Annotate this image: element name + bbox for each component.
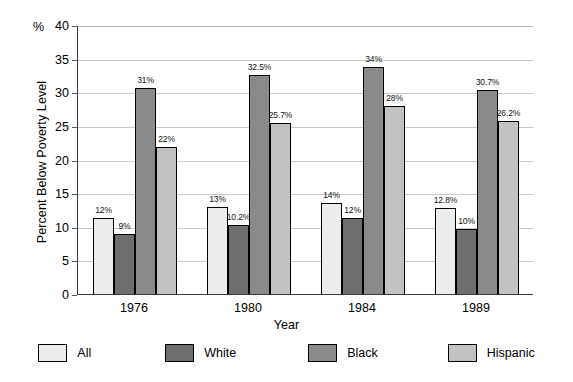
- bar-hispanic-1976: 22%: [156, 147, 177, 294]
- bar-all-1989: 12.8%: [435, 208, 456, 294]
- y-axis-tick-label: 25: [0, 121, 69, 133]
- bar-value-label: 34%: [365, 54, 382, 64]
- legend-swatch-black: [308, 344, 337, 362]
- bar-hispanic-1989: 26.2%: [498, 121, 519, 295]
- bar-value-label: 26.2%: [497, 108, 521, 118]
- bar-value-label: 22%: [158, 134, 175, 144]
- x-axis-tick-label: 1984: [302, 301, 422, 315]
- bar-all-1976: 12%: [93, 218, 114, 294]
- legend-swatch-all: [38, 344, 67, 362]
- plot-area: 12%9%31%22%13%10.2%32.5%25.7%14%12%34%28…: [77, 26, 533, 295]
- bar-value-label: 32.5%: [248, 62, 272, 72]
- y-axis-tick-label: 5: [0, 255, 69, 267]
- bar-black-1989: 30.7%: [477, 90, 498, 294]
- bar-value-label: 14%: [323, 190, 340, 200]
- legend-item-white[interactable]: White: [165, 344, 236, 362]
- bar-group: 14%12%34%28%: [306, 26, 420, 294]
- legend-swatch-hispanic: [448, 344, 477, 362]
- bar-all-1980: 13%: [207, 207, 228, 294]
- bar-value-label: 10%: [458, 216, 475, 226]
- y-axis-tick-label: 10: [0, 222, 69, 234]
- poverty-bar-chart: Percent Below Poverty Level % 0510152025…: [0, 0, 573, 382]
- legend-item-hispanic[interactable]: Hispanic: [448, 344, 535, 362]
- legend-label: White: [204, 346, 236, 360]
- bar-group: 13%10.2%32.5%25.7%: [192, 26, 306, 294]
- x-axis-title: Year: [0, 318, 573, 332]
- bar-value-label: 10.2%: [227, 212, 251, 222]
- bar-value-label: 31%: [137, 75, 154, 85]
- bar-black-1976: 31%: [135, 88, 156, 295]
- bar-value-label: 30.7%: [476, 77, 500, 87]
- bar-value-label: 12.8%: [434, 195, 458, 205]
- y-axis-tick-label: 40: [0, 20, 69, 32]
- x-axis-tick-label: 1976: [74, 301, 194, 315]
- bar-white-1980: 10.2%: [228, 225, 249, 294]
- bar-all-1984: 14%: [321, 203, 342, 295]
- bar-white-1984: 12%: [342, 218, 363, 294]
- bar-white-1976: 9%: [114, 234, 135, 294]
- bar-group: 12.8%10%30.7%26.2%: [420, 26, 534, 294]
- y-axis-tick-label: 35: [0, 54, 69, 66]
- bar-hispanic-1984: 28%: [384, 106, 405, 294]
- bar-value-label: 12%: [95, 205, 112, 215]
- bar-value-label: 28%: [386, 93, 403, 103]
- bar-value-label: 13%: [209, 194, 226, 204]
- bar-black-1980: 32.5%: [249, 75, 270, 294]
- bar-value-label: 12%: [344, 205, 361, 215]
- x-axis-tick-label: 1980: [188, 301, 308, 315]
- legend-item-black[interactable]: Black: [308, 344, 378, 362]
- legend-item-all[interactable]: All: [38, 344, 91, 362]
- bar-black-1984: 34%: [363, 67, 384, 294]
- bar-hispanic-1980: 25.7%: [270, 123, 291, 294]
- bar-value-label: 25.7%: [269, 110, 293, 120]
- y-axis-tick-label: 20: [0, 155, 69, 167]
- x-axis-tick-label: 1989: [416, 301, 536, 315]
- bar-group: 12%9%31%22%: [78, 26, 192, 294]
- bar-white-1989: 10%: [456, 229, 477, 294]
- legend-label: Black: [347, 346, 378, 360]
- y-axis-tick-mark: [72, 295, 77, 296]
- legend-swatch-white: [165, 344, 194, 362]
- y-axis-tick-label: 30: [0, 87, 69, 99]
- y-axis-tick-label: 0: [0, 289, 69, 301]
- bar-value-label: 9%: [118, 221, 130, 231]
- y-axis-tick-label: 15: [0, 188, 69, 200]
- legend: AllWhiteBlackHispanic: [0, 338, 573, 368]
- legend-label: Hispanic: [487, 346, 535, 360]
- legend-label: All: [77, 346, 91, 360]
